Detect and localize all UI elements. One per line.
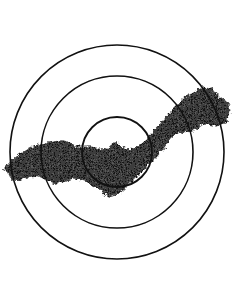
figure-background (0, 0, 237, 285)
figure-canvas (0, 0, 237, 285)
concentric-zone-diagram (0, 0, 237, 285)
